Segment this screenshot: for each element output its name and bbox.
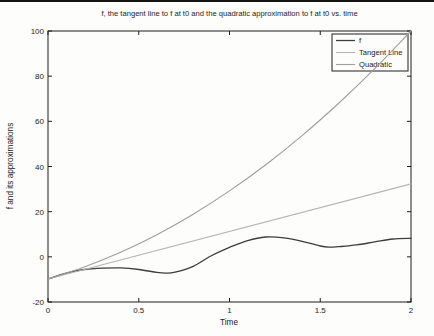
y-tick-label: 0	[40, 253, 45, 262]
y-tick-label: 100	[31, 27, 45, 36]
figure-canvas: f, the tangent line to f at t0 and the q…	[0, 0, 434, 336]
y-tick-label: 20	[35, 208, 44, 217]
x-axis-label: Time	[220, 318, 238, 327]
series-curve-f	[48, 237, 411, 279]
x-tick-label: 0.5	[133, 306, 145, 315]
y-tick-label: -20	[32, 298, 44, 307]
x-tick-label: 0	[46, 306, 51, 315]
plot-generated-content: 00.511.52-20020406080100fTangent LineQua…	[31, 27, 414, 315]
y-axis-label: f and its approximations	[6, 123, 15, 209]
x-tick-label: 1.5	[315, 306, 327, 315]
x-tick-label: 2	[409, 306, 414, 315]
plot-svg: f and its approximations Time 00.511.52-…	[0, 0, 434, 336]
x-tick-label: 1	[227, 306, 232, 315]
y-tick-label: 40	[35, 163, 44, 172]
series-curve-tangent-line	[48, 184, 411, 279]
y-tick-label: 60	[35, 117, 44, 126]
axes-box	[48, 31, 411, 302]
legend-entry-label: Tangent Line	[359, 48, 403, 57]
y-tick-label: 80	[35, 72, 44, 81]
